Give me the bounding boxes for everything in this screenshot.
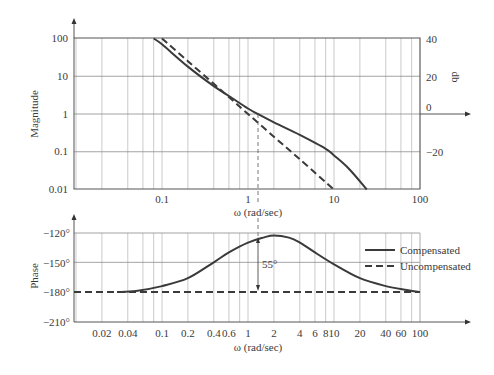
phase-y-ticks: −120° −150° −180° −210° [43,227,70,328]
phase-y-arrow-icon [72,214,77,220]
magnitude-x-label: ω (rad/sec) [234,206,283,219]
db-tick: 0 [426,101,432,113]
phase-x-label: ω (rad/sec) [234,341,283,354]
phase-ytick: −150° [43,257,70,269]
magnitude-y-label: Magnitude [28,90,40,138]
db-tick: 40 [426,33,438,45]
phase-margin-label: 55° [262,258,277,270]
phase-xtick: 1 [245,327,251,339]
phase-xtick: 0.04 [118,327,138,339]
phase-ytick: −210° [43,316,70,328]
bode-plot: 100 10 1 0.1 0.01 40 20 0 −20 db Magnitu… [0,0,494,375]
legend-uncompensated: Uncompensated [400,260,471,272]
phase-ytick: −180° [43,286,70,298]
magnitude-y-ticks: 100 10 1 0.1 0.01 [49,32,69,195]
mag-ytick: 0.01 [49,183,68,195]
phase-xtick: 0.4 [207,327,221,339]
phase-xtick: 20 [354,327,366,339]
phase-xtick: 60 [395,327,407,339]
phase-xtick: 2 [271,327,277,339]
mag-xtick: 0.1 [155,193,169,205]
mag-xtick: 1 [245,193,251,205]
mag-xtick: 10 [329,193,341,205]
db-tick: 20 [426,71,438,83]
mag-ytick: 100 [52,32,69,44]
phase-xtick: 0.02 [92,327,111,339]
phase-xtick: 4 [297,327,303,339]
zero-db-arrow-icon [465,112,471,117]
mag-ytick: 0.1 [54,145,68,157]
db-ticks: 40 20 0 −20 [426,33,444,158]
db-tick: −20 [426,146,444,158]
phase-grid [74,233,420,322]
phase-xtick: 100 [412,327,429,339]
mag-xtick: 100 [412,193,429,205]
phase-x-ticks: 0.020.040.10.20.40.61246810204060100 [92,327,428,339]
phase-xtick: 10 [329,327,341,339]
legend: Compensated Uncompensated [365,244,471,272]
mag-ytick: 10 [57,70,69,82]
phase-xtick: 0.2 [181,327,195,339]
phase-xtick: 40 [380,327,392,339]
magnitude-y-arrow-icon [72,18,77,24]
arrow-down-icon [256,285,260,291]
mag-ytick: 1 [63,108,69,120]
magnitude-panel: 100 10 1 0.1 0.01 40 20 0 −20 db Magnitu… [28,18,471,219]
db-label: db [450,72,462,84]
phase-xtick: 6 [312,327,318,339]
phase-x-arrow-icon [465,320,471,325]
phase-xtick: 0.1 [155,327,169,339]
magnitude-x-ticks: 0.1 1 10 100 [155,193,429,205]
phase-panel: −120° −150° −180° −210° Phase 0.020.040.… [28,214,471,354]
phase-xtick: 0.6 [222,327,236,339]
legend-compensated: Compensated [400,244,460,256]
phase-y-label: Phase [28,263,40,289]
phase-ytick: −120° [43,227,70,239]
